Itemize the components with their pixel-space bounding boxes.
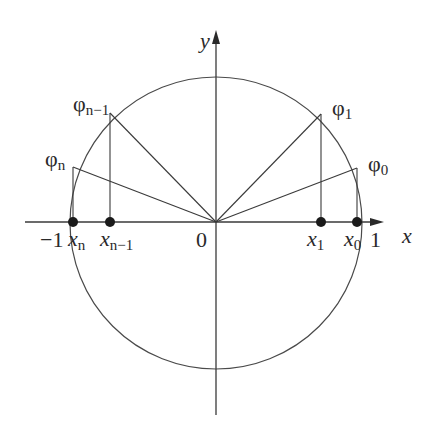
unit-circle-diagram: y x 0 −1 1 φn−1 φ1 φn φ0 xn xn−1 x1 x0 [0,0,437,433]
label-phi-1: φ1 [332,95,352,122]
label-phi-n: φn [45,146,66,173]
origin-label: 0 [196,227,207,252]
y-axis-arrow-icon [212,30,220,44]
tick-label-one: 1 [370,227,381,252]
dot-x-1 [316,217,326,227]
tick-label-minus-one: −1 [40,227,63,252]
label-x-1: x1 [306,226,324,253]
label-x-0: x0 [343,226,361,253]
y-axis-label: y [198,28,210,53]
label-x-n-minus-1: xn−1 [99,226,133,253]
radius-phi-1 [216,114,321,222]
label-phi-n-minus-1: φn−1 [73,91,109,118]
radius-phi-n-minus-1 [110,113,216,222]
label-x-n: xn [67,226,86,253]
x-axis-arrow-icon [370,218,384,226]
x-axis-label: x [401,223,412,248]
radius-phi-n [73,167,216,222]
radius-phi-0 [216,168,357,222]
label-phi-0: φ0 [368,151,388,178]
